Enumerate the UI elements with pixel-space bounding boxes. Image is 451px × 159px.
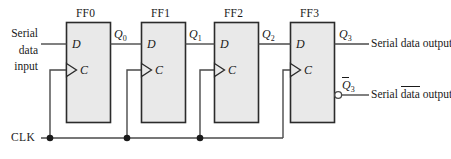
node-label-q1: Q1 [189, 27, 202, 44]
node-label-q2-sub: 2 [271, 34, 275, 43]
serial-data-input-label: Serial data input [0, 25, 38, 75]
inverting-bubble-q3bar [335, 92, 342, 99]
pin-label-ff2-c: C [228, 63, 236, 77]
serial-data-output-inverted-post: output [420, 88, 451, 100]
node-label-q3: Q3 [339, 27, 352, 44]
serial-data-output-label: Serial data output [371, 37, 451, 51]
flipflop-label-ff1: FF1 [151, 7, 170, 21]
serial-data-output-text-post: data output [401, 37, 451, 49]
pin-label-ff3-d: D [296, 37, 305, 51]
node-label-q0: Q0 [114, 27, 127, 44]
pin-label-ff2-d: D [220, 37, 229, 51]
serial-data-input-line1: Serial [0, 25, 38, 42]
serial-data-input-line3: input [0, 58, 38, 75]
pin-label-ff1-c: C [155, 63, 163, 77]
junction-dot-clk-ff1 [124, 135, 131, 142]
node-label-q2: Q2 [262, 27, 275, 44]
node-label-q3-bar-base: Q [342, 78, 351, 92]
wire-clk-riser-ff2 [200, 70, 215, 138]
flipflop-label-ff3: FF3 [300, 7, 319, 21]
serial-data-output-inverted-label: Serial data output [371, 88, 451, 102]
node-label-q3-bar-sub: 3 [351, 85, 355, 94]
node-label-q3-sub: 3 [348, 34, 352, 43]
wire-clk-riser-ff0 [50, 70, 67, 138]
serial-data-input-line2: data [0, 42, 38, 59]
junction-dot-clk-ff2 [197, 135, 204, 142]
shift-register-diagram: FF0 FF1 FF2 FF3 D D D D C C C C Q0 Q1 Q2… [0, 0, 451, 159]
flipflop-label-ff0: FF0 [76, 7, 95, 21]
node-label-q1-sub: 1 [198, 34, 202, 43]
flipflop-label-ff2: FF2 [224, 7, 243, 21]
node-label-q1-base: Q [189, 27, 198, 41]
node-label-q0-sub: 0 [123, 34, 127, 43]
clock-input-label: CLK [11, 131, 35, 145]
circuit-wiring-layer [0, 0, 451, 159]
pin-label-ff0-c: C [80, 63, 88, 77]
node-label-q3-base: Q [339, 27, 348, 41]
pin-label-ff1-d: D [147, 37, 156, 51]
node-label-q3-bar: Q3 [342, 78, 355, 95]
node-label-q2-base: Q [262, 27, 271, 41]
node-label-q0-base: Q [114, 27, 123, 41]
wire-clk-riser-ff1 [127, 70, 142, 138]
pin-label-ff3-c: C [304, 63, 312, 77]
serial-data-output-inverted-bar: data [401, 88, 420, 102]
junction-dot-clk-ff0 [47, 135, 54, 142]
serial-data-output-text-pre: Serial [371, 37, 401, 49]
wire-clk-riser-ff3 [283, 70, 291, 138]
pin-label-ff0-d: D [72, 37, 81, 51]
serial-data-output-inverted-pre: Serial [371, 88, 401, 100]
